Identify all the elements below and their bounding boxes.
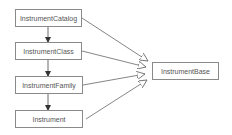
node-instrument-class: InstrumentClass [15,42,82,60]
node-instrument-catalog: InstrumentCatalog [15,9,82,27]
generalization-arrows [82,18,148,119]
edge-catalog-to-base [82,18,148,61]
edge-family-to-base [83,74,145,85]
node-label: InstrumentCatalog [20,15,77,22]
node-label: Instrument [32,116,65,123]
edge-instrument-to-base [86,80,147,119]
node-label: InstrumentClass [23,48,74,55]
node-instrument-family: InstrumentFamily [15,76,83,94]
node-instrument-base: InstrumentBase [152,62,219,80]
node-label: InstrumentFamily [22,82,76,89]
node-label: InstrumentBase [161,68,210,75]
node-instrument: Instrument [15,110,83,128]
